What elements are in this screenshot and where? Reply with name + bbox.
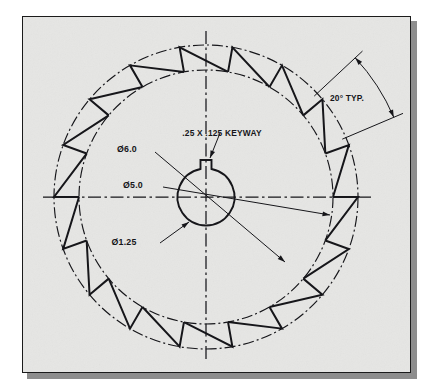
- dimension-label-angle-typ: 20° TYP.: [330, 93, 364, 103]
- leader-line-outer-dia: [155, 152, 285, 262]
- dimension-label-pitch-dia: Ø5.0: [123, 180, 143, 190]
- ratchet-tooth: [130, 65, 184, 87]
- leader-arrowhead-keyway-note: [210, 150, 215, 158]
- angular-dimension-arc: [355, 58, 394, 117]
- angular-arrowhead-1: [389, 109, 394, 117]
- dimension-label-keyway-note: .25 X .125 KEYWAY: [182, 128, 262, 138]
- dimension-label-outer-dia: Ø6.0: [117, 144, 137, 154]
- angular-extension-line-0: [314, 51, 362, 96]
- ratchet-tooth: [303, 240, 349, 278]
- ratchet-tooth: [63, 197, 86, 249]
- ratchet-tooth: [228, 47, 269, 87]
- technical-drawing-viewport: Ø6.0Ø5.0Ø1.25.25 X .125 KEYWAY20° TYP.: [0, 0, 427, 391]
- ratchet-tooth: [63, 115, 109, 153]
- ratchet-tooth: [228, 307, 282, 329]
- dimension-labels-group: Ø6.0Ø5.0Ø1.25.25 X .125 KEYWAY20° TYP.: [112, 93, 365, 247]
- leader-line-pitch-dia: [163, 187, 330, 215]
- ratchet-tooth: [325, 197, 358, 240]
- ratchet-tooth: [184, 322, 232, 347]
- ratchet-tooth: [143, 307, 184, 347]
- dimension-label-bore-dia: Ø1.25: [112, 237, 137, 247]
- leader-arrowhead-bore-dia: [182, 222, 189, 228]
- cad-geometry-layer: Ø6.0Ø5.0Ø1.25.25 X .125 KEYWAY20° TYP.: [0, 0, 427, 391]
- leader-arrowhead-pitch-dia: [322, 211, 330, 216]
- ratchet-tooth: [180, 47, 228, 72]
- ratchet-tooth: [325, 145, 348, 197]
- angular-extension-line-1: [342, 113, 403, 139]
